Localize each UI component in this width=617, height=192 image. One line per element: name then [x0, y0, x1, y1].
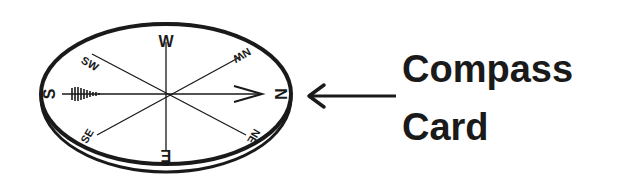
pointer-arrow-icon: [309, 85, 396, 107]
label-line-1: Compass: [402, 48, 573, 90]
point-label-north: N: [272, 88, 289, 100]
compass-card-diagram: W E N S NW SW NE SE Compass Card: [0, 0, 617, 192]
label-line-2: Card: [402, 106, 489, 148]
point-label-west: W: [158, 33, 174, 50]
compass-card: W E N S NW SW NE SE: [41, 24, 291, 172]
point-label-south: S: [41, 88, 58, 99]
point-label-east: E: [160, 147, 171, 164]
